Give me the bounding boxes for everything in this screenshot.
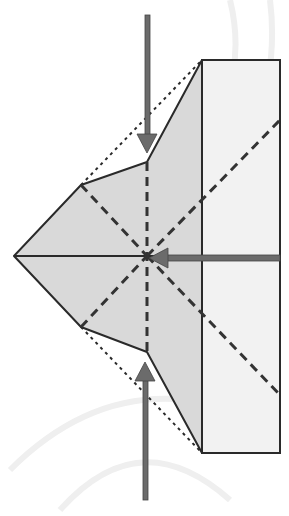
push-down-arrow [137, 15, 157, 153]
origami-diagram [0, 0, 289, 516]
push-up-arrow [135, 362, 155, 500]
